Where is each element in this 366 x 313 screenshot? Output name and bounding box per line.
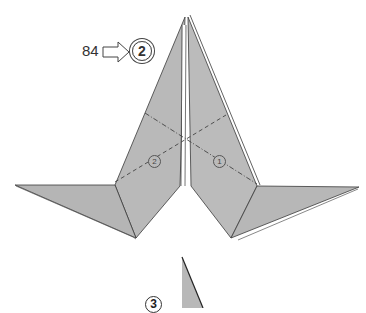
current-step-number: 3 [150, 297, 157, 311]
fold-marker-1: 1 [213, 155, 226, 168]
right-body-flap [188, 17, 257, 238]
fold-marker-1-label: 1 [217, 157, 221, 166]
target-step-marker: 2 [132, 41, 152, 61]
current-step-marker: 3 [145, 296, 162, 313]
reference-page-number: 84 [82, 42, 99, 59]
center-slit [183, 25, 184, 186]
fold-marker-2-label: 2 [152, 157, 156, 166]
right-arrow-icon [103, 42, 129, 62]
target-step-number: 2 [138, 43, 146, 59]
fold-marker-2: 2 [148, 155, 161, 168]
